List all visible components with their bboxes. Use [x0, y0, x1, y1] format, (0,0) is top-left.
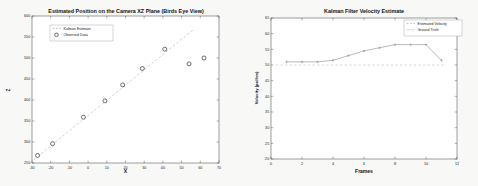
y-tick-label: 450 [24, 77, 30, 81]
x-tick-label: 0 [270, 162, 272, 166]
velocity-chart-plot-area: 02468101220253035404550556065Estimated V… [265, 16, 462, 165]
y-tick-label: 400 [24, 98, 30, 102]
plot-box [271, 18, 457, 159]
y-tick-label: 65 [265, 16, 269, 20]
x-tick-label: 60 [198, 166, 202, 170]
position-chart-panel: Estimated Position on the Camera XZ Plan… [0, 0, 239, 186]
y-tick-label: 20 [265, 157, 269, 161]
velocity-chart: Kalman Filter Velocity Estimate 02468101… [239, 0, 478, 186]
observed-point-marker [103, 99, 107, 103]
legend-entry-label: Kalman Estimate [64, 27, 91, 31]
observed-point-marker [163, 47, 167, 51]
legend-entry-label: Ground Truth [418, 28, 439, 32]
y-tick-label: 350 [24, 119, 30, 123]
x-tick-label: 0 [87, 166, 89, 170]
observed-point-marker [140, 67, 144, 71]
y-tick-label: 550 [24, 35, 30, 39]
position-chart-ylabel: Z [6, 88, 11, 91]
observed-point-marker [36, 153, 40, 157]
x-tick-label: 12 [455, 162, 459, 166]
y-tick-label: 30 [265, 126, 269, 130]
legend-entry-label: Observed Data [64, 33, 88, 37]
y-tick-label: 250 [24, 161, 30, 165]
x-tick-label: 40 [161, 166, 165, 170]
x-tick-label: -20 [48, 166, 53, 170]
x-tick-label: 70 [217, 166, 221, 170]
x-tick-label: 10 [424, 162, 428, 166]
y-tick-label: 500 [24, 56, 30, 60]
position-chart-plot-area: -30-20-100102030405060702503003504004505… [24, 14, 221, 169]
position-chart-title: Estimated Position on the Camera XZ Plan… [48, 8, 204, 14]
y-tick-label: 60 [265, 32, 269, 36]
x-tick-label: 30 [142, 166, 146, 170]
x-tick-label: 50 [180, 166, 184, 170]
observed-point-marker [202, 56, 206, 60]
y-tick-label: 600 [24, 14, 30, 18]
legend-entry-label: Estimated Velocity [418, 22, 448, 26]
observed-point-marker [81, 115, 85, 119]
screenshot-root: Estimated Position on the Camera XZ Plan… [0, 0, 478, 186]
position-chart: Estimated Position on the Camera XZ Plan… [0, 0, 239, 186]
y-tick-label: 300 [24, 140, 30, 144]
x-tick-label: 2 [301, 162, 303, 166]
legend-circle-sample [55, 33, 59, 37]
y-tick-label: 40 [265, 95, 269, 99]
y-tick-label: 50 [265, 63, 269, 67]
x-tick-label: 8 [394, 162, 396, 166]
y-tick-label: 25 [265, 142, 269, 146]
x-tick-label: -10 [67, 166, 72, 170]
x-tick-label: 4 [332, 162, 334, 166]
x-tick-label: 6 [363, 162, 365, 166]
velocity-chart-title: Kalman Filter Velocity Estimate [324, 8, 404, 14]
y-tick-label: 35 [265, 110, 269, 114]
velocity-chart-xlabel: Frames [355, 168, 373, 174]
observed-point-marker [51, 142, 55, 146]
y-tick-label: 55 [265, 48, 269, 52]
y-tick-label: 45 [265, 79, 269, 83]
x-tick-label: 10 [105, 166, 109, 170]
velocity-chart-ylabel: Velocity (px/frm) [254, 71, 259, 104]
observed-point-marker [121, 83, 125, 87]
velocity-chart-panel: Kalman Filter Velocity Estimate 02468101… [239, 0, 478, 186]
observed-point-marker [187, 62, 191, 66]
x-tick-label: -30 [29, 166, 34, 170]
